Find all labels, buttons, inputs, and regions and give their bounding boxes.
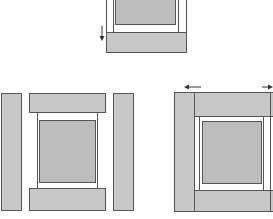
bottom-rail bbox=[29, 188, 106, 211]
arrow-left-icon bbox=[184, 84, 202, 90]
assembled-right-edge bbox=[270, 92, 271, 212]
assembled-bottom-rail bbox=[194, 190, 273, 212]
arrow-down-icon bbox=[99, 26, 105, 42]
top-outer-left-edge bbox=[106, 0, 107, 33]
top-rail bbox=[29, 93, 106, 113]
center-panel bbox=[39, 120, 96, 183]
assembled-left-stile bbox=[174, 92, 195, 212]
assembled-center-panel bbox=[202, 121, 262, 184]
top-center-panel bbox=[115, 0, 176, 25]
left-stile bbox=[1, 93, 22, 211]
assembled-top-rail bbox=[194, 92, 273, 117]
top-outer-right-edge bbox=[186, 0, 187, 33]
right-stile bbox=[113, 93, 134, 211]
top-bottom-rail bbox=[106, 32, 187, 53]
arrow-right-icon bbox=[262, 84, 273, 90]
